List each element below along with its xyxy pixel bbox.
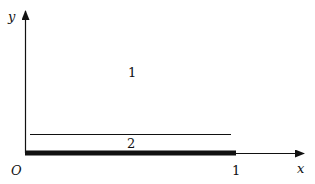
x-axis-label: x (297, 162, 304, 175)
y-axis-label: y (8, 10, 15, 23)
origin-label: O (11, 164, 22, 177)
region-2-label: 2 (127, 137, 135, 150)
x-tick-label: 1 (232, 164, 240, 177)
diagram-canvas (0, 0, 315, 184)
region-1-label: 1 (128, 66, 136, 79)
thick-boundary-segment (25, 151, 236, 156)
